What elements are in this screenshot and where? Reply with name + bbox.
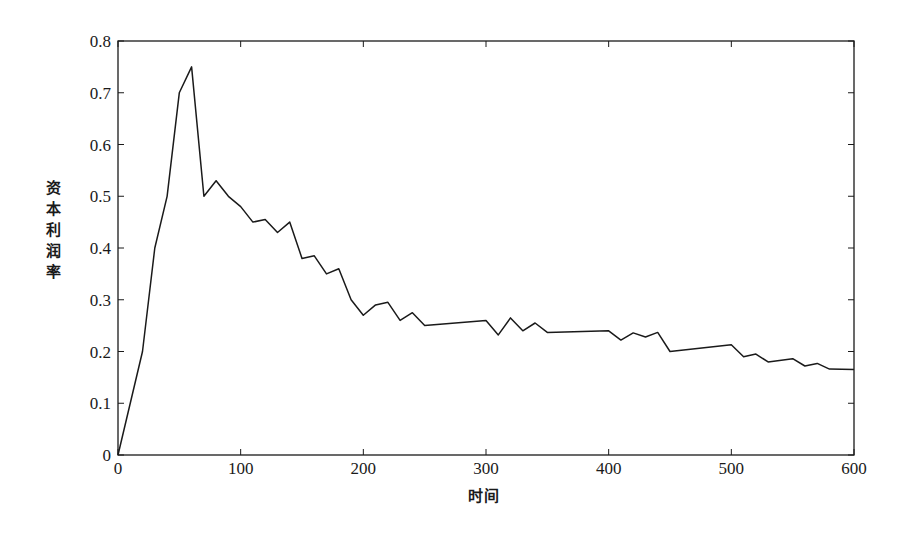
x-axis-title: 时间 [468, 484, 500, 505]
series-line [118, 67, 854, 455]
x-tick-label: 100 [228, 459, 254, 478]
line-chart: 010020030040050060000.10.20.30.40.50.60.… [0, 0, 923, 539]
x-tick-label: 400 [596, 459, 622, 478]
y-tick-label: 0.1 [90, 394, 111, 413]
plot-border [118, 41, 854, 455]
x-tick-label: 0 [114, 459, 123, 478]
y-tick-label: 0.4 [90, 239, 112, 258]
data-series [118, 67, 854, 455]
plot-frame [118, 41, 854, 455]
x-tick-label: 500 [719, 459, 745, 478]
y-axis-title: 资本利润率 [44, 178, 62, 283]
axis-ticks [118, 41, 854, 455]
y-tick-label: 0.2 [90, 343, 111, 362]
x-tick-label: 200 [351, 459, 377, 478]
y-tick-label: 0.7 [90, 84, 112, 103]
y-tick-label: 0.3 [90, 291, 111, 310]
x-tick-label: 600 [841, 459, 867, 478]
y-tick-label: 0 [103, 446, 112, 465]
x-tick-label: 300 [473, 459, 499, 478]
y-tick-label: 0.5 [90, 187, 111, 206]
y-tick-label: 0.6 [90, 136, 111, 155]
axis-tick-labels: 010020030040050060000.10.20.30.40.50.60.… [90, 32, 867, 478]
y-tick-label: 0.8 [90, 32, 111, 51]
